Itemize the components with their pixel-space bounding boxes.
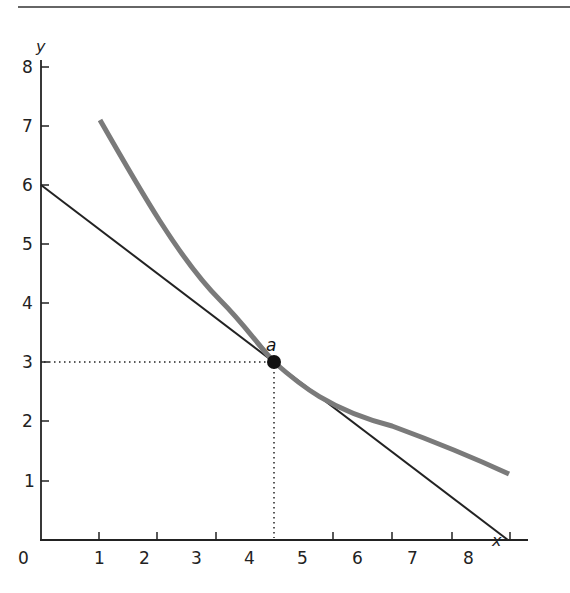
y-tick-label: 4 [22,293,33,313]
indifference-curve [100,120,509,474]
y-tick-label: 7 [22,116,33,136]
x-tick-label: 8 [463,548,474,568]
y-tick-label: 2 [22,411,33,431]
point-label-a: a [266,335,276,355]
x-tick-label: 2 [139,548,150,568]
x-tick-label: 0 [18,548,29,568]
chart-canvas: 8 7 6 5 4 3 2 1 0 1 2 3 4 5 6 7 8 y x a [0,0,570,593]
x-tick-label: 7 [407,548,418,568]
x-tick-label: 6 [352,548,363,568]
x-tick-label: 1 [94,548,105,568]
y-tick-label: 3 [22,352,33,372]
y-tick-label: 6 [22,175,33,195]
x-tick-label: 5 [297,548,308,568]
y-tick-label: 8 [22,57,33,77]
y-tick-label: 1 [24,471,35,491]
x-tick-label: 4 [244,548,255,568]
y-tick-label: 5 [22,234,33,254]
y-axis-label: y [35,37,46,56]
tangency-point [267,355,281,369]
y-ticks [41,67,49,481]
x-tick-label: 3 [191,548,202,568]
x-ticks [99,532,510,540]
